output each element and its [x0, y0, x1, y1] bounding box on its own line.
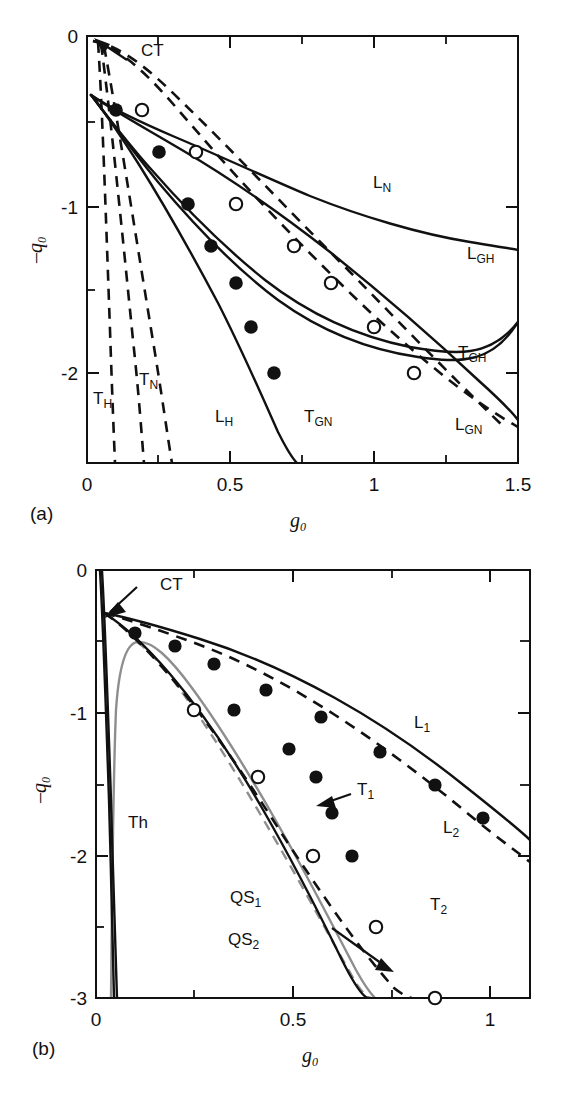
x-ticklabel-2: 1 [369, 474, 380, 495]
label-TH-a: TH [93, 389, 112, 411]
panel-b-filled-circles [128, 626, 489, 862]
data-point-filled [476, 811, 489, 824]
x-ticklabel-1: 0.5 [217, 474, 243, 495]
data-point-open [368, 321, 380, 333]
figure-container: 0 -1 -2 0 0.5 1 [0, 0, 562, 1101]
data-point-filled [227, 703, 240, 716]
label-Th-b: Th [128, 813, 148, 832]
y-ticklabel-2: -2 [70, 846, 87, 867]
curve-L2-b [104, 613, 530, 862]
panel-b-qs2-arrow [332, 928, 394, 972]
label-TN-a: TN [139, 370, 158, 392]
panel-a-axes [87, 36, 518, 463]
data-point-filled [345, 849, 358, 862]
panel-b-plot: 0 -1 -2 -3 0 0.5 1 [0, 540, 562, 1101]
panel-b-y-ticks [96, 570, 530, 998]
data-point-open [288, 240, 300, 252]
data-point-open [136, 104, 148, 116]
label-LN-a: LN [373, 173, 391, 195]
panel-b-x-ticklabels: 0 0.5 1 [91, 1009, 496, 1030]
data-point-open [370, 921, 382, 933]
label-CT-b: CT [160, 575, 183, 594]
data-point-filled [168, 639, 181, 652]
data-point-open [408, 367, 420, 379]
data-point-filled [181, 197, 195, 211]
data-point-filled [109, 103, 123, 117]
panel-b-axes [96, 570, 530, 998]
x-ticklabel-0: 0 [82, 474, 93, 495]
data-point-open [190, 146, 202, 158]
data-point-filled [314, 710, 327, 723]
panel-b-t1-arrow [316, 794, 351, 808]
data-point-filled [428, 778, 441, 791]
y-ticklabel-3: -3 [70, 988, 87, 1009]
panel-a-x-ticks [87, 36, 518, 463]
panel-a-y-ticklabels: 0 -1 -2 [61, 26, 78, 384]
x-ticklabel-2: 1 [485, 1009, 496, 1030]
data-point-open [325, 277, 337, 289]
label-LH-a: LH [215, 407, 233, 429]
y-ticklabel-1: -1 [61, 197, 78, 218]
label-T1-b: T1 [357, 780, 374, 802]
panel-b-ct-arrow [104, 587, 137, 618]
panel-a-label: (a) [30, 503, 53, 524]
panel-b: 0 -1 -2 -3 0 0.5 1 [0, 540, 562, 1101]
label-LGN-a: LGN [455, 415, 482, 437]
label-TGN-a: TGN [304, 407, 332, 429]
data-point-filled [282, 742, 295, 755]
x-ticklabel-1: 0.5 [280, 1009, 306, 1030]
x-ticklabel-0: 0 [91, 1009, 102, 1030]
data-point-filled [128, 626, 141, 639]
data-point-filled [373, 745, 386, 758]
label-CT-a: CT [141, 41, 164, 60]
panel-b-y-ticklabels: 0 -1 -2 -3 [70, 560, 87, 1009]
panel-b-label: (b) [32, 1038, 55, 1059]
panel-b-curves [100, 571, 530, 998]
label-L2-b: L2 [443, 818, 459, 840]
data-point-filled [267, 366, 281, 380]
y-ticklabel-2: -2 [61, 363, 78, 384]
curve-CT-a [93, 41, 504, 427]
label-QS2-b: QS2 [228, 930, 260, 952]
data-point-open [307, 850, 319, 862]
data-point-filled [229, 276, 243, 290]
curve-LGN-a [91, 95, 518, 420]
data-point-filled [309, 770, 322, 783]
panel-a-y-axis-title: –q0 [24, 237, 49, 264]
label-L1-b: L1 [414, 713, 430, 735]
data-point-filled [244, 320, 258, 334]
y-ticklabel-0: 0 [76, 560, 87, 581]
label-T2-b: T2 [430, 895, 447, 917]
panel-a-x-ticklabels: 0 0.5 1 1.5 [82, 474, 532, 495]
panel-b-y-axis-title: –q0 [28, 777, 53, 804]
panel-a-y-ticks [87, 36, 518, 373]
data-point-filled [259, 683, 272, 696]
panel-a-plot: 0 -1 -2 0 0.5 1 [0, 0, 562, 550]
panel-a: 0 -1 -2 0 0.5 1 [0, 0, 562, 550]
panel-b-x-axis-title: g0 [302, 1044, 318, 1069]
data-point-open [252, 771, 264, 783]
data-point-open [429, 992, 441, 1004]
data-point-open [188, 704, 200, 716]
panel-a-x-axis-title: g0 [290, 509, 306, 534]
label-TGH-a: TGH [458, 343, 486, 365]
data-point-filled [204, 239, 218, 253]
label-QS1-b: QS1 [230, 888, 262, 910]
panel-a-curves [91, 41, 518, 463]
data-point-filled [152, 145, 166, 159]
y-ticklabel-0: 0 [67, 26, 78, 47]
data-point-open [230, 198, 242, 210]
label-LGH-a: LGH [467, 244, 494, 266]
data-point-filled [207, 657, 220, 670]
x-ticklabel-3: 1.5 [505, 474, 531, 495]
data-point-filled [325, 806, 338, 819]
y-ticklabel-1: -1 [70, 703, 87, 724]
